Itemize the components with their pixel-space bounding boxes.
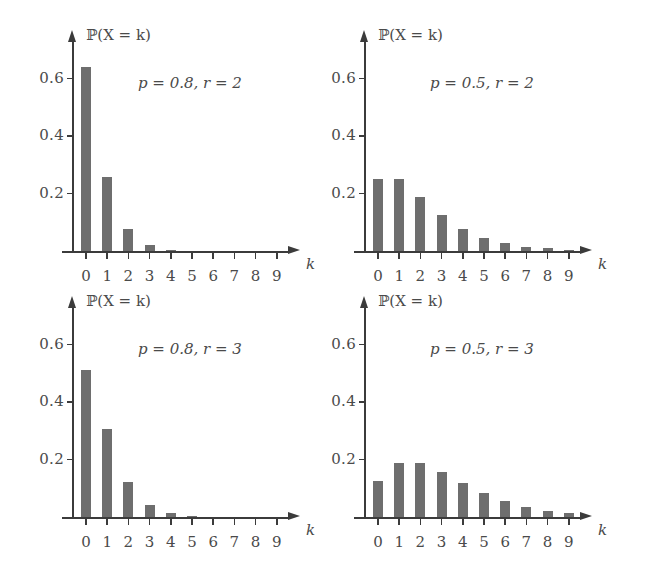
x-axis-tick bbox=[462, 251, 464, 259]
bar bbox=[123, 482, 133, 517]
bar bbox=[500, 501, 510, 517]
bar bbox=[166, 250, 176, 251]
x-axis-tick-label: 9 bbox=[267, 533, 287, 551]
x-axis-tick-label: 6 bbox=[495, 533, 515, 551]
bars-layer bbox=[300, 12, 610, 251]
bar bbox=[543, 248, 553, 251]
y-axis-title: ℙ(X = k) bbox=[86, 26, 151, 44]
x-axis-tick bbox=[441, 251, 443, 259]
bar bbox=[437, 215, 447, 251]
x-axis-tick bbox=[526, 517, 528, 525]
plot-area: 0.20.40.60123456789ℙ(X = k)kp = 0.8, r =… bbox=[8, 12, 318, 292]
x-axis-tick-label: 8 bbox=[538, 533, 558, 551]
bar bbox=[81, 67, 91, 251]
y-axis-title: ℙ(X = k) bbox=[378, 292, 443, 310]
bar bbox=[145, 505, 155, 517]
bar bbox=[81, 370, 91, 517]
chart-panel: 0.20.40.60123456789ℙ(X = k)kp = 0.8, r =… bbox=[8, 278, 318, 558]
x-axis-tick-label: 7 bbox=[516, 533, 536, 551]
bar bbox=[394, 463, 404, 517]
x-axis-tick bbox=[255, 251, 257, 259]
parameter-annotation: p = 0.8, r = 3 bbox=[138, 340, 242, 358]
bar bbox=[373, 481, 383, 517]
x-axis-tick bbox=[377, 251, 379, 259]
x-axis-tick bbox=[149, 251, 151, 259]
x-axis-tick bbox=[212, 517, 214, 525]
x-axis-tick-label: 4 bbox=[453, 533, 473, 551]
x-axis-tick bbox=[568, 517, 570, 525]
x-axis-tick-label: 3 bbox=[432, 533, 452, 551]
bar bbox=[415, 463, 425, 517]
x-axis-tick bbox=[106, 251, 108, 259]
x-axis-tick bbox=[568, 251, 570, 259]
x-axis-tick-label: 5 bbox=[182, 533, 202, 551]
x-axis-tick bbox=[420, 517, 422, 525]
x-axis-tick bbox=[234, 517, 236, 525]
x-axis-title: k bbox=[598, 255, 607, 273]
bar bbox=[479, 493, 489, 517]
chart-panel: 0.20.40.60123456789ℙ(X = k)kp = 0.5, r =… bbox=[300, 12, 610, 292]
bar bbox=[543, 511, 553, 517]
chart-panel: 0.20.40.60123456789ℙ(X = k)kp = 0.5, r =… bbox=[300, 278, 610, 558]
x-axis-tick bbox=[106, 517, 108, 525]
bars-layer bbox=[300, 278, 610, 517]
x-axis-tick bbox=[276, 517, 278, 525]
x-axis-tick bbox=[377, 517, 379, 525]
x-axis-tick bbox=[191, 517, 193, 525]
x-axis-tick bbox=[462, 517, 464, 525]
bar bbox=[145, 245, 155, 251]
bars-layer bbox=[8, 278, 318, 517]
x-axis-tick bbox=[85, 251, 87, 259]
x-axis-tick bbox=[547, 517, 549, 525]
y-axis-title: ℙ(X = k) bbox=[378, 26, 443, 44]
parameter-annotation: p = 0.5, r = 2 bbox=[430, 74, 534, 92]
bar bbox=[500, 243, 510, 251]
x-axis-tick-label: 4 bbox=[161, 533, 181, 551]
bar bbox=[479, 238, 489, 251]
x-axis-tick-label: 2 bbox=[118, 533, 138, 551]
x-axis-tick-label: 2 bbox=[410, 533, 430, 551]
x-axis-tick-label: 8 bbox=[246, 533, 266, 551]
x-axis-tick-label: 1 bbox=[97, 533, 117, 551]
x-axis-tick bbox=[212, 251, 214, 259]
x-axis-tick bbox=[128, 517, 130, 525]
bar bbox=[373, 179, 383, 251]
x-axis-tick-label: 3 bbox=[140, 533, 160, 551]
x-axis-tick-label: 7 bbox=[224, 533, 244, 551]
bar bbox=[102, 429, 112, 517]
x-axis-tick bbox=[85, 517, 87, 525]
x-axis-tick-label: 9 bbox=[559, 533, 579, 551]
x-axis-tick bbox=[398, 517, 400, 525]
negative-binomial-pmf-figure: 0.20.40.60123456789ℙ(X = k)kp = 0.8, r =… bbox=[0, 0, 650, 572]
bar bbox=[564, 513, 574, 517]
x-axis-tick-label: 5 bbox=[474, 533, 494, 551]
x-axis-tick bbox=[191, 251, 193, 259]
bar bbox=[458, 229, 468, 251]
x-axis-tick bbox=[526, 251, 528, 259]
parameter-annotation: p = 0.8, r = 2 bbox=[138, 74, 242, 92]
x-axis-tick bbox=[547, 251, 549, 259]
bar bbox=[521, 507, 531, 517]
bar bbox=[521, 247, 531, 251]
plot-area: 0.20.40.60123456789ℙ(X = k)kp = 0.5, r =… bbox=[300, 278, 610, 558]
x-axis-tick bbox=[504, 251, 506, 259]
parameter-annotation: p = 0.5, r = 3 bbox=[430, 340, 534, 358]
bar bbox=[187, 516, 197, 517]
bar bbox=[415, 197, 425, 251]
x-axis-tick-label: 6 bbox=[203, 533, 223, 551]
x-axis-tick-label: 1 bbox=[389, 533, 409, 551]
plot-area: 0.20.40.60123456789ℙ(X = k)kp = 0.8, r =… bbox=[8, 278, 318, 558]
plot-area: 0.20.40.60123456789ℙ(X = k)kp = 0.5, r =… bbox=[300, 12, 610, 292]
y-axis-title: ℙ(X = k) bbox=[86, 292, 151, 310]
x-axis-tick bbox=[170, 517, 172, 525]
x-axis-tick bbox=[420, 251, 422, 259]
x-axis-tick bbox=[504, 517, 506, 525]
x-axis-tick bbox=[234, 251, 236, 259]
x-axis-tick bbox=[128, 251, 130, 259]
chart-panel: 0.20.40.60123456789ℙ(X = k)kp = 0.8, r =… bbox=[8, 12, 318, 292]
bar bbox=[437, 472, 447, 517]
x-axis-title: k bbox=[598, 521, 607, 539]
bars-layer bbox=[8, 12, 318, 251]
bar bbox=[123, 229, 133, 251]
x-axis-tick-label: 0 bbox=[76, 533, 96, 551]
